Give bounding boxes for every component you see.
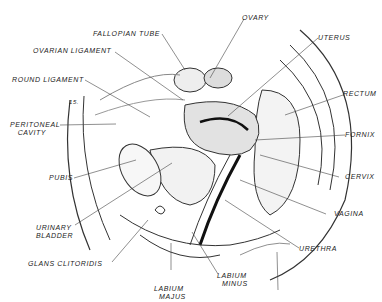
label-glans-clitoridis: GLANS CLITORIDIS <box>28 260 102 268</box>
label-ovarian-ligament: OVARIAN LIGAMENT <box>33 47 111 55</box>
label-labium-minus: LABIUM MINUS <box>217 272 248 288</box>
label-urethra: URETHRA <box>299 245 337 253</box>
label-round-ligament: ROUND LIGAMENT <box>12 76 84 84</box>
label-labium-majus: LABIUM MAJUS <box>154 285 186 301</box>
figure-marker: 15. <box>69 98 79 106</box>
label-fornix: FORNIX <box>345 131 375 139</box>
label-vagina: VAGINA <box>334 210 364 218</box>
label-uterus: UTERUS <box>318 34 350 42</box>
label-pubis: PUBIS <box>49 174 73 182</box>
label-peritoneal-cavity: PERITONEAL CAVITY <box>10 121 60 137</box>
label-cervix: CERVIX <box>345 173 375 181</box>
anatomy-illustration <box>0 0 382 302</box>
label-fallopian-tube: FALLOPIAN TUBE <box>93 30 160 38</box>
anatomy-diagram: 15. FALLOPIAN TUBE OVARY OVARIAN LIGAMEN… <box>0 0 382 302</box>
label-rectum: RECTUM <box>343 90 377 98</box>
label-urinary-bladder: URINARY BLADDER <box>36 224 73 240</box>
label-ovary: OVARY <box>242 14 269 22</box>
